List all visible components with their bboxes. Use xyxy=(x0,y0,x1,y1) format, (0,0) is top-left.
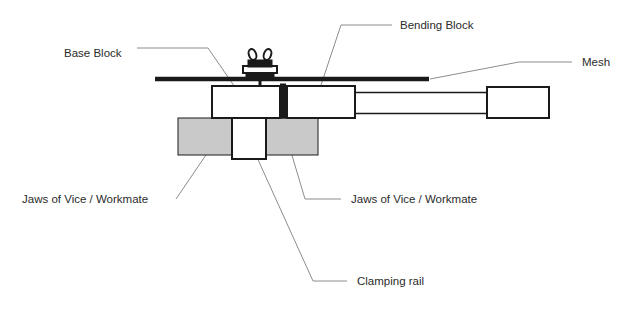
leader-jaws-right xyxy=(291,152,341,199)
label-jaws-right: Jaws of Vice / Workmate xyxy=(351,193,477,205)
leader-jaws-left xyxy=(176,152,208,199)
vice-jaw-left xyxy=(178,118,232,155)
base-block-part xyxy=(212,86,280,118)
bending-jig-diagram: Base Block Bending Block Mesh Jaws of Vi… xyxy=(0,0,636,315)
label-clamping-rail: Clamping rail xyxy=(357,275,424,287)
handle-end-block-part xyxy=(487,87,549,118)
leader-clamping-rail xyxy=(250,142,347,281)
leader-mesh xyxy=(430,62,572,79)
vice-jaw-right xyxy=(266,118,318,155)
label-base-block: Base Block xyxy=(64,47,122,59)
label-mesh: Mesh xyxy=(582,56,610,68)
handle-rails-part xyxy=(355,93,488,114)
nut-body xyxy=(248,60,272,67)
bending-block-part xyxy=(287,86,355,118)
diagram-canvas: Base Block Bending Block Mesh Jaws of Vi… xyxy=(0,0,636,315)
wing-nut-left-wing xyxy=(247,48,258,61)
wing-nut-right-wing xyxy=(262,48,273,61)
label-jaws-left: Jaws of Vice / Workmate xyxy=(22,193,148,205)
label-bending-block: Bending Block xyxy=(400,19,474,31)
pivot-bar-part xyxy=(281,84,286,118)
clamping-rail-part xyxy=(232,118,266,159)
